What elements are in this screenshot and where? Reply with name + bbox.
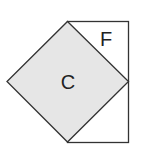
label-c: C	[61, 71, 75, 93]
label-f: F	[100, 28, 112, 50]
diagram-canvas: C F	[0, 0, 142, 147]
